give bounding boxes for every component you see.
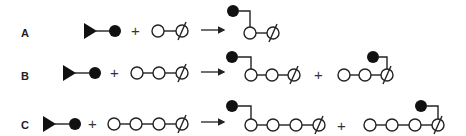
product-1 <box>227 5 279 42</box>
product-1 <box>226 51 300 84</box>
product-2 <box>364 100 444 134</box>
row-label-b: B <box>21 70 29 82</box>
row-label-a: A <box>21 27 29 39</box>
product-2 <box>338 51 393 84</box>
filled-unit-icon <box>109 25 121 37</box>
donor-molecule <box>63 65 101 81</box>
plus-sign: + <box>88 115 97 132</box>
donor-molecule <box>43 116 81 132</box>
plus-sign: + <box>314 66 323 83</box>
row-b: B + + <box>21 51 393 84</box>
triangle-end-icon <box>84 23 97 39</box>
row-a: A + <box>21 5 279 42</box>
row-c: C + + <box>21 100 444 134</box>
plus-sign: + <box>131 22 140 39</box>
acceptor-chain <box>152 22 188 40</box>
row-label-c: C <box>21 119 29 131</box>
reaction-diagram: A + B + <box>0 0 466 136</box>
plus-sign: + <box>337 117 346 134</box>
acceptor-chain <box>131 64 188 82</box>
product-1 <box>226 100 325 134</box>
plus-sign: + <box>110 64 119 81</box>
donor-molecule <box>84 23 121 39</box>
acceptor-chain <box>108 115 188 133</box>
